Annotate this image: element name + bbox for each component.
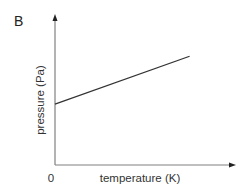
- x-axis-origin-tick: 0: [48, 172, 54, 184]
- data-line: [55, 56, 190, 104]
- x-axis-label: temperature (K): [100, 172, 181, 184]
- y-axis-arrow-icon: [53, 14, 58, 21]
- y-axis-label: pressure (Pa): [34, 65, 46, 135]
- x-axis-arrow-icon: [229, 163, 236, 168]
